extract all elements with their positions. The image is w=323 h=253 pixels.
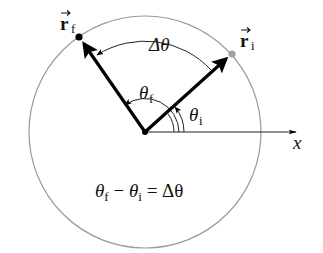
angular-displacement-diagram: r f r i Δθ θ f θ i x θf − θi = Δθ (0, 0, 323, 253)
r-initial-label: r i (240, 28, 255, 54)
svg-text:i: i (199, 113, 203, 128)
r-final-vector (84, 44, 145, 132)
equation: θf − θi = Δθ (95, 180, 183, 204)
svg-text:θ: θ (189, 104, 198, 125)
svg-text:θ: θ (139, 82, 148, 103)
final-position-point (75, 33, 82, 40)
initial-position-point (228, 50, 235, 57)
svg-text:θf − θi = Δθ: θf − θi = Δθ (95, 180, 183, 204)
svg-text:i: i (251, 38, 255, 53)
origin-point (142, 129, 148, 135)
theta-i-label: θ i (189, 104, 203, 128)
svg-text:f: f (71, 21, 76, 36)
delta-theta-label: Δθ (148, 34, 169, 55)
r-final-label: r f (60, 11, 76, 37)
svg-text:f: f (149, 91, 154, 106)
theta-f-label: θ f (139, 82, 154, 106)
r-initial-vector (145, 59, 226, 132)
svg-text:r: r (240, 30, 249, 51)
theta-i-arc-inner (168, 114, 174, 132)
x-axis-label: x (292, 132, 302, 153)
svg-text:r: r (60, 13, 69, 34)
